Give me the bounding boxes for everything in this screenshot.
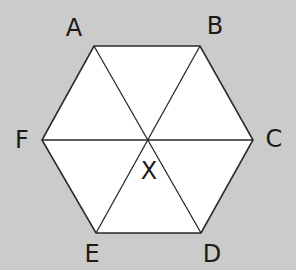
vertex-label-C: C: [266, 127, 283, 151]
center-label-X: X: [141, 159, 157, 183]
vertex-label-A: A: [66, 16, 82, 40]
hexagon-diagram: A B C D E F X: [0, 0, 296, 270]
vertex-label-B: B: [207, 14, 223, 38]
vertex-label-D: D: [203, 242, 221, 266]
vertex-label-F: F: [15, 128, 29, 152]
vertex-label-E: E: [84, 242, 99, 266]
hexagon-figure: [0, 0, 296, 270]
